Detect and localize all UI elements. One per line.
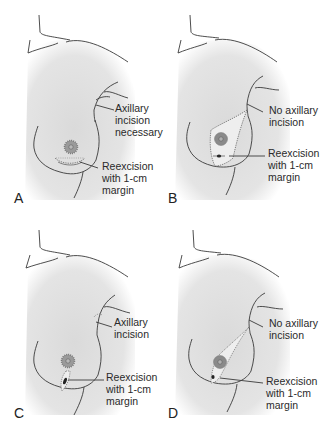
axillary-label-line2: incision	[269, 116, 318, 128]
panel-letter-a: A	[14, 190, 23, 206]
reexcision-label-line1: Reexcision	[266, 375, 317, 387]
axillary-label-line2: incision	[115, 114, 163, 126]
reexcision-label-b: Reexcision with 1-cm margin	[268, 147, 319, 183]
axillary-label-line1: Axillary	[115, 102, 163, 114]
axillary-label-a: Axillary incision necessary	[115, 102, 163, 138]
reexcision-label-line2: with 1-cm	[102, 172, 153, 184]
reexcision-label-line1: Reexcision	[102, 160, 153, 172]
reexcision-label-line3: margin	[102, 184, 153, 196]
reexcision-label-line3: margin	[266, 399, 317, 411]
reexcision-label-line2: with 1-cm	[266, 387, 317, 399]
reexcision-label-d: Reexcision with 1-cm margin	[266, 375, 317, 411]
reexcision-label-c: Reexcision with 1-cm margin	[106, 371, 157, 407]
reexcision-label-line2: with 1-cm	[106, 383, 157, 395]
axillary-label-line1: No axillary	[269, 104, 318, 116]
axillary-label-d: No axillary incision	[269, 317, 318, 341]
panel-c: Axillary incision Reexcision with 1-cm m…	[0, 215, 164, 432]
axillary-label-c: Axillary incision	[114, 316, 149, 340]
reexcision-label-line3: margin	[106, 395, 157, 407]
reexcision-label-line2: with 1-cm	[268, 159, 319, 171]
panel-a: Axillary incision necessary Reexcision w…	[0, 0, 164, 217]
panel-b: No axillary incision Reexcision with 1-c…	[165, 0, 329, 217]
panel-letter-c: C	[14, 405, 24, 421]
reexcision-label-a: Reexcision with 1-cm margin	[102, 160, 153, 196]
axillary-label-line2: incision	[114, 328, 149, 340]
reexcision-label-line3: margin	[268, 171, 319, 183]
axillary-label-line1: Axillary	[114, 316, 149, 328]
axillary-label-line3: necessary	[115, 126, 163, 138]
panel-d: No axillary incision Reexcision with 1-c…	[165, 215, 329, 432]
axillary-label-b: No axillary incision	[269, 104, 318, 128]
panel-letter-d: D	[168, 405, 178, 421]
panel-letter-b: B	[168, 190, 177, 206]
reexcision-label-line1: Reexcision	[106, 371, 157, 383]
axillary-label-line2: incision	[269, 329, 318, 341]
axillary-label-line1: No axillary	[269, 317, 318, 329]
reexcision-label-line1: Reexcision	[268, 147, 319, 159]
